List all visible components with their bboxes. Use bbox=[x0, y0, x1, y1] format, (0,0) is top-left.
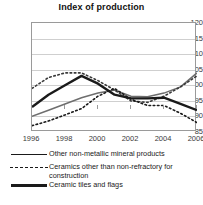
x-tick-label: 2002 bbox=[115, 134, 145, 143]
legend-label: Ceramics other than non-refractory for c… bbox=[49, 163, 203, 180]
x-tick-mark bbox=[31, 105, 32, 109]
x-tick-label: 2004 bbox=[148, 134, 178, 143]
legend-item-ceramics-other: Ceramics other than non-refractory for c… bbox=[8, 163, 203, 180]
legend-label: Ceramic tiles and flags bbox=[49, 181, 203, 190]
x-tick-mark bbox=[130, 105, 131, 109]
series-other-non-metallic-mineral-products bbox=[32, 76, 197, 110]
series-ceramics-upper-trace bbox=[32, 73, 197, 103]
x-tick-mark bbox=[163, 105, 164, 109]
legend-item-ceramic-tiles: Ceramic tiles and flags bbox=[8, 181, 203, 190]
x-tick-label: 2000 bbox=[82, 134, 112, 143]
x-tick-label: 2006 bbox=[181, 134, 203, 143]
x-tick-mark bbox=[97, 105, 98, 109]
plot-area bbox=[31, 22, 196, 131]
legend-key-solid-thin-line bbox=[8, 150, 49, 159]
x-tick-label: 1998 bbox=[49, 134, 79, 143]
x-tick-mark bbox=[196, 105, 197, 109]
x-tick-label: 1996 bbox=[16, 134, 46, 143]
x-tick-mark bbox=[64, 105, 65, 109]
legend-key-dashed-line bbox=[8, 163, 49, 172]
chart-container: Index of production 120 115 110 105 100 … bbox=[0, 0, 203, 205]
chart-title: Index of production bbox=[0, 2, 203, 12]
legend-key-solid-thick-line bbox=[8, 181, 49, 190]
legend-item-other-non-metallic: Other non-metallic mineral products bbox=[8, 150, 203, 159]
legend-label: Other non-metallic mineral products bbox=[49, 150, 203, 159]
series-plot bbox=[32, 23, 197, 132]
chart-legend: Other non-metallic mineral products Cera… bbox=[8, 150, 203, 192]
